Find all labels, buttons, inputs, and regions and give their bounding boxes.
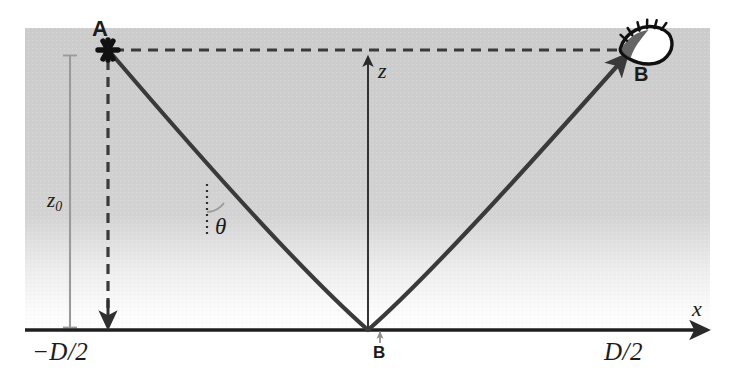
diagram-canvas xyxy=(0,0,735,385)
label-theta-angle: θ xyxy=(215,215,226,238)
label-point-b-observer: B xyxy=(634,64,648,84)
label-x-tick-right: D/2 xyxy=(604,339,643,364)
label-z-axis: z xyxy=(378,60,387,82)
label-point-a: A xyxy=(92,18,108,40)
label-z0-subscript: 0 xyxy=(55,199,62,214)
label-x-tick-left: −D/2 xyxy=(32,339,88,364)
label-point-b-ground: B xyxy=(373,344,385,361)
ray-diagram-figure: A B B z x z0 θ −D/2 D/2 xyxy=(0,0,735,385)
label-z0-base: z xyxy=(47,188,55,212)
label-z0-height: z0 xyxy=(47,190,62,214)
label-x-axis: x xyxy=(692,298,702,320)
